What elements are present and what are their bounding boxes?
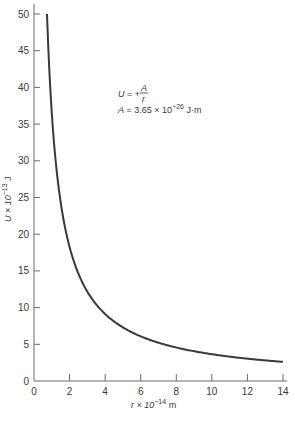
y-tick-label: 40 — [18, 82, 30, 93]
constant-lhs: A — [117, 105, 124, 115]
y-tick-label: 45 — [18, 45, 30, 56]
y-tick-label: 10 — [18, 302, 30, 313]
constant-eq: = 3.65 × 10 — [124, 105, 172, 115]
y-tick-label: 0 — [23, 376, 29, 387]
x-tick-label: 0 — [31, 386, 37, 397]
y-tick-label: 50 — [18, 9, 30, 20]
formula-annotation: U = + A r — [118, 83, 148, 104]
svg-text:U = +: U = + — [118, 89, 140, 99]
constant-exp: −26 — [172, 103, 184, 110]
x-tick-label: 4 — [102, 386, 108, 397]
x-axis-label: r × 10−14 m — [131, 398, 176, 410]
formula-denominator: r — [142, 94, 146, 104]
y-tick-label: 20 — [18, 229, 30, 240]
x-axis-ticks: 02468101214 — [31, 374, 289, 397]
potential-energy-curve — [47, 14, 283, 362]
svg-text:A = 3.65 × 10−26 J·m: A = 3.65 × 10−26 J·m — [117, 103, 201, 115]
formula-numerator: A — [140, 83, 147, 93]
x-tick-label: 12 — [242, 386, 254, 397]
x-tick-label: 6 — [138, 386, 144, 397]
x-tick-label: 2 — [67, 386, 73, 397]
y-tick-label: 15 — [18, 265, 30, 276]
y-tick-label: 35 — [18, 119, 30, 130]
y-tick-label: 25 — [18, 192, 30, 203]
y-axis-ticks: 05101520253035404550 — [18, 9, 40, 387]
constant-annotation: A = 3.65 × 10−26 J·m — [117, 103, 201, 115]
x-tick-label: 14 — [277, 386, 289, 397]
x-tick-label: 10 — [206, 386, 218, 397]
formula-eq: = + — [125, 89, 141, 99]
y-tick-label: 5 — [23, 339, 29, 350]
constant-unit: J·m — [184, 105, 202, 115]
y-axis-label: U × 10−13 J — [1, 176, 13, 222]
y-tick-label: 30 — [18, 155, 30, 166]
chart: 05101520253035404550 02468101214 U = + A… — [0, 0, 295, 421]
x-tick-label: 8 — [174, 386, 180, 397]
